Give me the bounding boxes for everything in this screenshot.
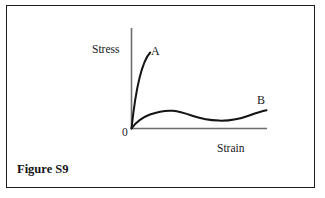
curve-a-path [132,53,151,129]
y-axis-title: Stress [92,44,119,56]
figure-container: Stress Strain 0 A B Figure S9 [0,0,325,198]
curve-b-label: B [257,94,265,106]
figure-caption: Figure S9 [17,163,69,176]
curve-a-label: A [151,45,160,57]
x-axis-title: Strain [217,143,244,155]
origin-label: 0 [122,127,128,139]
curve-b-path [132,110,267,128]
